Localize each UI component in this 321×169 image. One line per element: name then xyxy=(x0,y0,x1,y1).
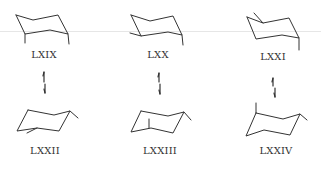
label-LXXIV: LXXIV xyxy=(259,145,292,156)
label-LXXIII: LXXIII xyxy=(143,145,177,156)
equilibrium-arrow-3 xyxy=(272,78,275,97)
chair-LXX xyxy=(130,15,183,45)
chair-LXXI xyxy=(247,13,299,50)
diagram-canvas xyxy=(0,0,321,169)
equilibrium-arrow-1 xyxy=(43,72,45,93)
chair-LXXII xyxy=(17,110,78,133)
label-LXXII: LXXII xyxy=(30,145,60,156)
label-LXX: LXX xyxy=(147,49,168,60)
label-LXIX: LXIX xyxy=(31,49,57,60)
label-LXXI: LXXI xyxy=(260,51,286,62)
equilibrium-arrow-2 xyxy=(158,73,160,94)
chair-LXIX xyxy=(16,15,69,44)
chair-LXXIII xyxy=(131,111,191,133)
chair-LXXIV xyxy=(246,103,307,136)
